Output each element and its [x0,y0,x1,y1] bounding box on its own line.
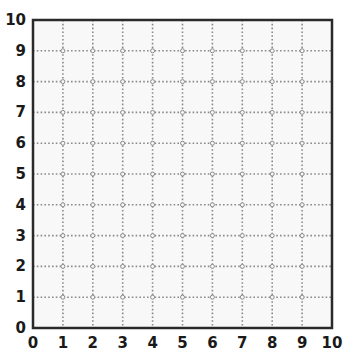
intersection-marker [121,141,125,145]
intersection-marker [91,234,95,238]
intersection-marker [91,172,95,176]
intersection-marker [240,203,244,207]
y-tick-label: 2 [16,257,26,275]
intersection-marker [181,49,185,53]
intersection-marker [210,203,214,207]
x-tick-label: 1 [58,334,68,352]
intersection-marker [61,80,65,84]
y-tick-label: 6 [16,134,26,152]
intersection-marker [240,141,244,145]
y-axis-tick-labels: 012345678910 [5,11,26,337]
x-tick-label: 6 [207,334,217,352]
intersection-marker [300,295,304,299]
intersection-marker [270,203,274,207]
intersection-marker [270,172,274,176]
intersection-marker [91,49,95,53]
intersection-marker [240,80,244,84]
intersection-marker [91,110,95,114]
intersection-marker [210,295,214,299]
x-axis-tick-labels: 012345678910 [28,334,343,352]
intersection-marker [300,80,304,84]
x-tick-label: 10 [322,334,343,352]
intersection-marker [121,172,125,176]
intersection-marker [270,110,274,114]
intersection-marker [210,110,214,114]
intersection-marker [240,49,244,53]
intersection-marker [151,203,155,207]
intersection-marker [270,295,274,299]
intersection-marker [151,80,155,84]
intersection-marker [181,141,185,145]
intersection-marker [270,264,274,268]
intersection-marker [210,264,214,268]
intersection-marker [300,203,304,207]
intersection-marker [61,295,65,299]
intersection-marker [61,203,65,207]
intersection-marker [91,203,95,207]
intersection-marker [91,80,95,84]
intersection-marker [91,264,95,268]
intersection-marker [300,234,304,238]
intersection-marker [181,295,185,299]
y-tick-label: 9 [16,42,26,60]
intersection-marker [210,172,214,176]
intersection-marker [151,110,155,114]
y-tick-label: 8 [16,73,26,91]
intersection-marker [61,110,65,114]
intersection-marker [151,172,155,176]
y-tick-label: 4 [16,196,26,214]
x-tick-label: 7 [237,334,247,352]
intersection-marker [151,141,155,145]
intersection-marker [300,141,304,145]
intersection-marker [240,264,244,268]
x-tick-label: 2 [88,334,98,352]
intersection-marker [300,49,304,53]
intersection-marker [61,49,65,53]
intersection-marker [121,80,125,84]
intersection-marker [181,264,185,268]
y-tick-label: 7 [16,103,26,121]
y-tick-label: 1 [16,288,26,306]
intersection-marker [61,234,65,238]
x-tick-label: 5 [177,334,187,352]
intersection-marker [121,49,125,53]
intersection-marker [181,234,185,238]
intersection-marker [121,295,125,299]
intersection-marker [121,110,125,114]
coordinate-grid: 012345678910 012345678910 [0,0,346,355]
y-tick-label: 10 [5,11,26,29]
intersection-marker [240,110,244,114]
intersection-marker [121,203,125,207]
y-tick-label: 5 [16,165,26,183]
intersection-marker [121,234,125,238]
intersection-marker [210,49,214,53]
intersection-marker [270,80,274,84]
x-tick-label: 8 [267,334,277,352]
x-tick-label: 3 [117,334,127,352]
intersection-marker [181,80,185,84]
x-tick-label: 9 [297,334,307,352]
intersection-marker [240,295,244,299]
intersection-marker [300,110,304,114]
intersection-marker [91,141,95,145]
intersection-marker [210,80,214,84]
intersection-marker [151,264,155,268]
intersection-marker [240,172,244,176]
intersection-marker [151,49,155,53]
x-tick-label: 4 [147,334,157,352]
intersection-marker [181,203,185,207]
intersection-marker [151,234,155,238]
intersection-marker [91,295,95,299]
intersection-marker [61,172,65,176]
intersection-marker [181,172,185,176]
intersection-marker [210,234,214,238]
intersection-marker [240,234,244,238]
y-tick-label: 0 [16,319,26,337]
x-tick-label: 0 [28,334,38,352]
intersection-marker [270,49,274,53]
intersection-marker [181,110,185,114]
intersection-marker [210,141,214,145]
intersection-marker [270,141,274,145]
intersection-marker [270,234,274,238]
intersection-marker [300,172,304,176]
